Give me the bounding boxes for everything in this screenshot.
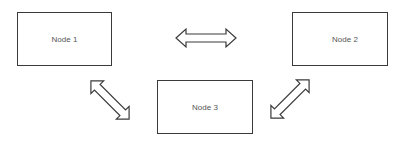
double-arrow-icon-node1-node3 bbox=[85, 75, 136, 126]
double-arrow-icon-node1-node2 bbox=[176, 29, 236, 47]
double-arrow-icon-node2-node3 bbox=[265, 74, 316, 125]
